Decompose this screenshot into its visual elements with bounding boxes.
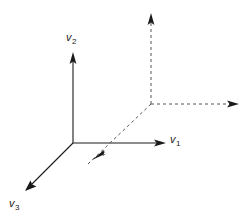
dashed-vertical-projection	[148, 13, 155, 104]
axis-label-v3-base: v	[9, 197, 15, 209]
axis-v1	[73, 140, 166, 147]
diagonal-arrowhead-fill	[92, 151, 106, 161]
dashed-diagonal-projection	[88, 104, 151, 164]
axis-v3-arrowhead	[25, 181, 36, 191]
axes-diagram: v1 v2 v3	[0, 0, 247, 220]
axis-label-v1-subscript: 1	[176, 139, 181, 148]
axes-svg-canvas	[0, 0, 247, 220]
axis-label-v2-subscript: 2	[72, 37, 77, 46]
axis-v3	[25, 143, 73, 191]
axis-v3-line	[32, 143, 73, 184]
axis-label-v1-base: v	[170, 133, 176, 145]
diagonal-arrowhead	[92, 150, 105, 160]
dashed-horizontal-arrowhead	[227, 101, 239, 108]
axis-label-v1: v1	[170, 134, 180, 148]
dashed-diagonal-line	[88, 104, 151, 164]
diagonal-arrowhead-marker	[92, 150, 106, 160]
axis-label-v3: v3	[9, 198, 19, 212]
axis-label-v2-base: v	[66, 31, 72, 43]
axis-label-v2: v2	[66, 32, 76, 46]
axis-v2	[70, 52, 77, 143]
axis-label-v3-subscript: 3	[15, 203, 20, 212]
dashed-horizontal-projection	[151, 101, 239, 108]
